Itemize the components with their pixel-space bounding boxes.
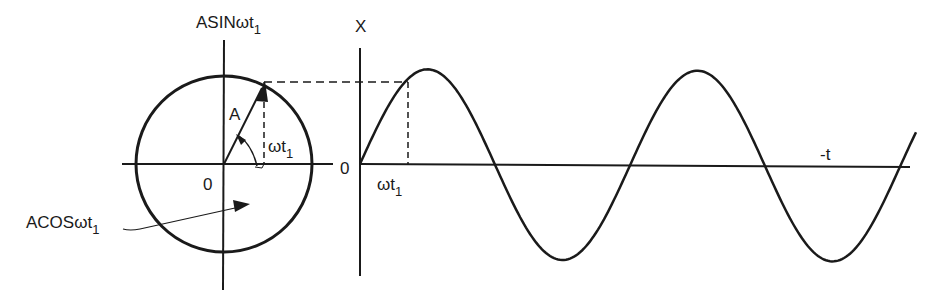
t-axis-label: -t: [820, 145, 831, 164]
acos-leader-line: [123, 208, 235, 230]
vector-label: A: [229, 105, 241, 124]
asin-label: ASINωt1: [196, 13, 261, 37]
circle-origin-label: 0: [203, 175, 212, 194]
phasor-diagram: ASINωt1 X A ωt1 0 ACOSωt1 0 ωt1 -t: [0, 0, 942, 305]
acos-label: ACOSωt1: [26, 213, 99, 237]
waveform-origin-label: 0: [340, 159, 349, 178]
acos-arrow-icon: [233, 200, 250, 212]
marker-label: ωt1: [377, 175, 402, 199]
waveform-y-label: X: [355, 17, 366, 36]
angle-arrow-icon: [236, 134, 246, 145]
phasor-vector: [224, 88, 262, 164]
waveform-t-axis: [360, 164, 910, 167]
angle-label: ωt1: [268, 137, 293, 161]
